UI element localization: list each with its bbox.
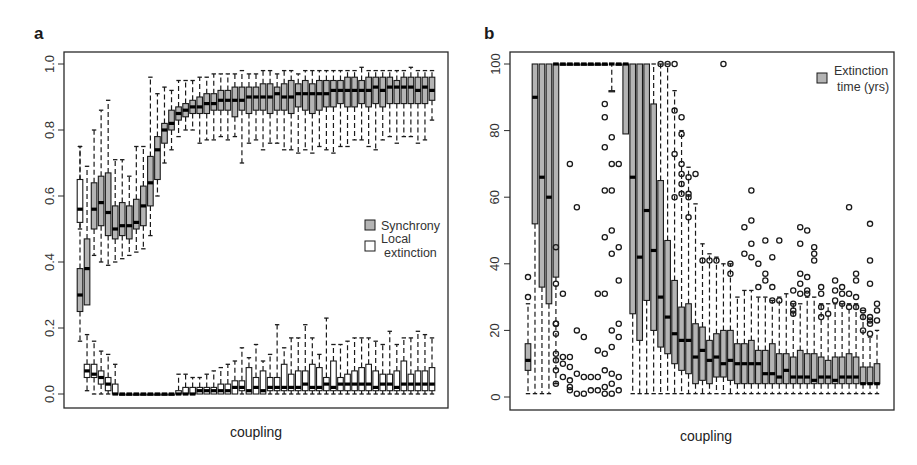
boxplot-synchrony-9 <box>141 147 147 249</box>
boxplot-synchrony-27 <box>267 71 273 144</box>
y-tick-label: 80 <box>488 123 503 137</box>
legend-swatch-local-extinction <box>365 241 375 251</box>
boxplot-local-extinction-46 <box>401 338 407 394</box>
boxplot-local-extinction-39 <box>352 338 358 394</box>
outlier-point <box>679 115 684 120</box>
boxplot-local-extinction-1 <box>84 335 90 391</box>
boxplot-extinction-time-yrs--12 <box>609 64 615 92</box>
outlier-point <box>574 328 579 333</box>
boxplot-local-extinction-0 <box>77 147 83 230</box>
boxplot-extinction-time-yrs--40 <box>804 297 810 394</box>
boxplot-local-extinction-13 <box>169 394 175 395</box>
outlier-point <box>609 381 614 386</box>
outlier-point <box>616 245 621 250</box>
boxplot-extinction-time-yrs--5 <box>560 64 566 65</box>
outlier-point <box>742 225 747 230</box>
outlier-point <box>567 161 572 166</box>
boxplot-synchrony-16 <box>190 81 196 131</box>
panel-b-y-axis: 020406080100 <box>488 53 511 400</box>
panel-b-label: b <box>484 24 494 43</box>
boxplot-synchrony-14 <box>176 81 182 137</box>
boxplot-extinction-time-yrs--41 <box>811 297 817 394</box>
outlier-point <box>588 388 593 393</box>
boxplot-extinction-time-yrs--33 <box>756 297 762 394</box>
outlier-point <box>798 225 803 230</box>
outlier-point <box>602 115 607 120</box>
outlier-point <box>567 388 572 393</box>
boxplot-extinction-time-yrs--44 <box>832 304 838 394</box>
outlier-point <box>763 271 768 276</box>
outlier-point <box>819 291 824 296</box>
outlier-point <box>721 61 726 66</box>
boxplot-local-extinction-37 <box>338 345 344 395</box>
outlier-point <box>609 328 614 333</box>
boxplot-extinction-time-yrs--14 <box>623 64 629 134</box>
outlier-point <box>616 161 621 166</box>
boxplot-synchrony-30 <box>288 71 294 150</box>
boxplot-extinction-time-yrs--30 <box>735 297 741 394</box>
boxplot-local-extinction-20 <box>218 368 224 394</box>
boxplot-synchrony-50 <box>429 71 435 121</box>
outlier-point <box>616 278 621 283</box>
outlier-point <box>749 241 754 246</box>
boxplot-local-extinction-32 <box>302 325 308 394</box>
boxplot-synchrony-34 <box>317 71 323 147</box>
outlier-point <box>602 291 607 296</box>
outlier-point <box>609 135 614 140</box>
boxplot-synchrony-13 <box>169 90 175 149</box>
boxplot-synchrony-37 <box>338 71 344 147</box>
boxplot-local-extinction-38 <box>345 341 351 394</box>
figure: a 0.00.20.40.60.81.0 coupling Synchrony … <box>0 0 917 465</box>
outlier-point <box>805 228 810 233</box>
legend-label-extinction-time-line1: Extinction <box>834 64 888 78</box>
boxplot-extinction-time-yrs--13 <box>616 64 622 65</box>
boxplot-local-extinction-14 <box>176 374 182 394</box>
outlier-point <box>567 364 572 369</box>
boxplot-local-extinction-33 <box>310 338 316 394</box>
boxplot-synchrony-3 <box>98 110 104 262</box>
boxplot-synchrony-45 <box>394 71 400 144</box>
outlier-point <box>840 285 845 290</box>
boxplot-synchrony-29 <box>281 71 287 150</box>
boxplot-extinction-time-yrs--39 <box>797 304 803 394</box>
outlier-point <box>749 255 754 260</box>
boxplot-local-extinction-15 <box>183 374 189 394</box>
y-tick-label: 0 <box>488 393 503 400</box>
boxplot-synchrony-7 <box>126 176 132 255</box>
panel-b-boxplots <box>525 61 880 396</box>
y-tick-label: 0.8 <box>42 121 57 139</box>
legend-swatch-synchrony <box>365 220 375 230</box>
boxplot-synchrony-5 <box>112 160 118 262</box>
boxplot-extinction-time-yrs--31 <box>742 290 748 393</box>
boxplot-local-extinction-26 <box>260 361 266 394</box>
outlier-point <box>525 275 530 280</box>
y-tick-label: 0.6 <box>42 187 57 205</box>
outlier-point <box>609 391 614 396</box>
boxplot-extinction-time-yrs--9 <box>588 64 594 65</box>
boxplot-synchrony-39 <box>352 71 358 140</box>
outlier-point <box>602 101 607 106</box>
boxplot-local-extinction-23 <box>239 348 245 394</box>
boxplot-local-extinction-31 <box>295 338 301 394</box>
boxplot-synchrony-15 <box>183 81 189 131</box>
outlier-point <box>846 291 851 296</box>
outlier-point <box>602 368 607 373</box>
outlier-point <box>609 344 614 349</box>
panel-a-label: a <box>34 24 44 43</box>
boxplot-synchrony-24 <box>246 74 252 143</box>
boxplot-local-extinction-5 <box>112 364 118 394</box>
boxplot-extinction-time-yrs--23 <box>686 167 692 393</box>
outlier-point <box>756 285 761 290</box>
outlier-point <box>588 374 593 379</box>
boxplot-synchrony-48 <box>415 71 421 144</box>
panel-a-x-axis-title: coupling <box>230 424 282 440</box>
y-tick-label: 0.2 <box>42 319 57 337</box>
outlier-point <box>567 378 572 383</box>
boxplot-synchrony-49 <box>422 71 428 140</box>
outlier-point <box>867 258 872 263</box>
boxplot-synchrony-28 <box>274 74 280 143</box>
outlier-point <box>791 288 796 293</box>
boxplot-extinction-time-yrs--21 <box>672 91 678 394</box>
outlier-point <box>749 188 754 193</box>
outlier-point <box>602 351 607 356</box>
